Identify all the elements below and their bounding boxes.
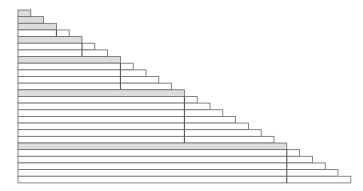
shaded-row bbox=[18, 17, 44, 24]
row bbox=[18, 96, 197, 103]
row bbox=[18, 116, 236, 123]
row bbox=[18, 170, 338, 177]
row bbox=[18, 77, 159, 84]
row bbox=[18, 123, 248, 130]
shaded-row bbox=[18, 23, 56, 30]
row bbox=[18, 163, 325, 170]
shaded-row bbox=[18, 57, 120, 64]
row bbox=[18, 63, 133, 70]
row bbox=[18, 176, 351, 183]
shaded-row bbox=[18, 90, 184, 97]
row bbox=[18, 70, 146, 77]
row bbox=[18, 136, 274, 143]
shaded-row bbox=[18, 143, 287, 150]
row bbox=[18, 30, 69, 37]
staircase-diagram bbox=[0, 0, 363, 191]
row bbox=[18, 50, 108, 57]
row bbox=[18, 43, 95, 50]
row bbox=[18, 130, 261, 137]
row bbox=[18, 103, 210, 110]
row bbox=[18, 150, 300, 157]
row bbox=[18, 110, 223, 117]
shaded-row bbox=[18, 10, 31, 17]
row bbox=[18, 156, 312, 163]
row bbox=[18, 83, 172, 90]
shaded-row bbox=[18, 37, 82, 44]
